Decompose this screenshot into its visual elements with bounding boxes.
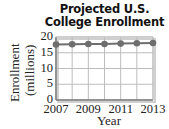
- chart-root: Projected U.S. College Enrollment Enroll…: [0, 0, 169, 129]
- data-point-marker: [85, 41, 92, 48]
- plot-area: [0, 0, 169, 129]
- data-point-marker: [150, 40, 157, 47]
- data-point-marker: [117, 40, 124, 47]
- data-point-marker: [101, 41, 108, 48]
- data-point-marker: [134, 40, 141, 47]
- data-point-marker: [69, 41, 76, 48]
- data-point-marker: [53, 41, 60, 48]
